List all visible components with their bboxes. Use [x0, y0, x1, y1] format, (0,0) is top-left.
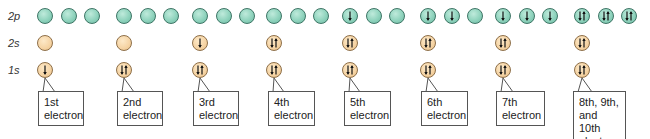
electron-label-text: electrons — [579, 135, 621, 139]
electron-label-text: and 10th — [579, 109, 621, 135]
callout-pointer — [0, 0, 650, 139]
electron-label-box: 8th, 9th,and 10thelectrons — [573, 91, 626, 139]
electron-label-text: 8th, 9th, — [579, 96, 621, 109]
